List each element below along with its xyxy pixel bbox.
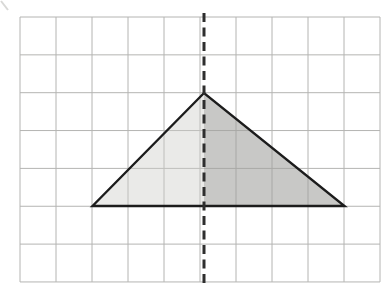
geometry-figure: [0, 0, 391, 292]
corner-mark: [1, 1, 8, 10]
figure-svg: [0, 0, 391, 292]
